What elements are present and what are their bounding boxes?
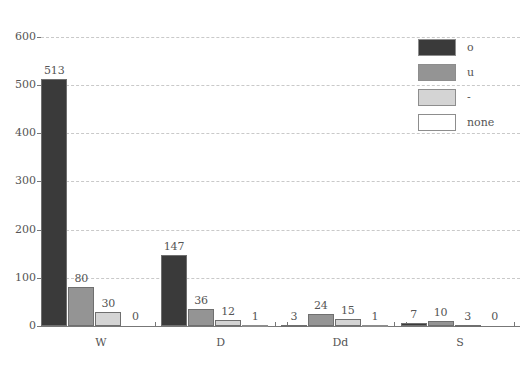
legend-swatch bbox=[418, 89, 456, 106]
y-axis-tick-label: 600 bbox=[2, 31, 36, 42]
x-axis-group-label: Dd bbox=[281, 336, 401, 349]
legend-swatch bbox=[418, 64, 456, 81]
y-axis-tick-label: 200 bbox=[2, 224, 36, 235]
bar-value-label: 36 bbox=[181, 295, 221, 306]
y-axis-tick-mark bbox=[37, 326, 41, 327]
bar-value-label: 80 bbox=[61, 273, 101, 284]
bar bbox=[242, 325, 268, 327]
gridline bbox=[41, 278, 520, 279]
x-axis-group-tick bbox=[275, 322, 276, 327]
y-axis-tick-label: 300 bbox=[2, 175, 36, 186]
legend-item[interactable]: none bbox=[418, 112, 524, 132]
bar bbox=[281, 325, 307, 327]
figure-caption bbox=[0, 358, 532, 369]
bar bbox=[401, 323, 427, 326]
bar-value-label: 147 bbox=[154, 241, 194, 252]
gridline bbox=[41, 181, 520, 182]
bar bbox=[161, 255, 187, 326]
bar bbox=[455, 325, 481, 327]
bar-chart: 0100200300400500600 WDDdS ou-none 513803… bbox=[0, 0, 532, 369]
x-axis-group-tick bbox=[155, 322, 156, 327]
bar-value-label: 1 bbox=[355, 311, 395, 322]
x-axis-group-label: S bbox=[400, 336, 520, 349]
bar bbox=[308, 314, 334, 326]
legend-swatch bbox=[418, 114, 456, 131]
y-axis-tick-label: 0 bbox=[2, 320, 36, 331]
x-axis-group-tick bbox=[394, 322, 395, 327]
y-axis: 0100200300400500600 bbox=[0, 0, 36, 369]
bar-value-label: 30 bbox=[88, 298, 128, 309]
x-axis-group-label: W bbox=[41, 336, 161, 349]
x-axis-group-label: D bbox=[161, 336, 281, 349]
bar bbox=[428, 321, 454, 326]
y-axis-tick-label: 400 bbox=[2, 127, 36, 138]
y-axis-tick-label: 500 bbox=[2, 79, 36, 90]
bar bbox=[41, 79, 67, 326]
legend-swatch bbox=[418, 39, 456, 56]
legend-item[interactable]: - bbox=[418, 87, 524, 107]
legend-item[interactable]: u bbox=[418, 62, 524, 82]
legend-label: o bbox=[467, 42, 474, 53]
y-axis-tick-mark bbox=[37, 37, 41, 38]
bar-value-label: 0 bbox=[115, 311, 155, 322]
x-axis-group-tick bbox=[514, 322, 515, 327]
legend-label: u bbox=[467, 67, 474, 78]
bar-value-label: 1 bbox=[235, 311, 275, 322]
bar-value-label: 0 bbox=[475, 311, 515, 322]
y-axis-tick-label: 100 bbox=[2, 272, 36, 283]
bar bbox=[362, 325, 388, 327]
chart-legend: ou-none bbox=[418, 37, 524, 137]
gridline bbox=[41, 230, 520, 231]
legend-label: none bbox=[467, 117, 494, 128]
bar-value-label: 513 bbox=[34, 65, 74, 76]
legend-label: - bbox=[467, 92, 471, 103]
legend-item[interactable]: o bbox=[418, 37, 524, 57]
